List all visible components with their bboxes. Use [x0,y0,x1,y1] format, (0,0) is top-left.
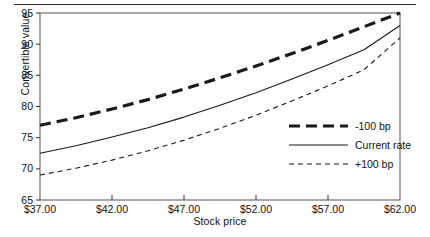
legend-label: +100 bp [355,158,393,170]
y-tick-label: 85 [21,69,33,81]
chart-figure: Convertible value Stock price 6570758085… [0,0,430,237]
x-tick-label: $57.00 [312,203,344,215]
y-axis-ticks: 65707580859095 [21,7,40,206]
x-tick-label: $47.00 [168,203,200,215]
y-tick-label: 70 [21,162,33,174]
x-tick-label: $52.00 [240,203,272,215]
y-tick-label: 95 [21,7,33,19]
legend-label: -100 bp [355,120,391,132]
x-tick-label: $42.00 [96,203,128,215]
y-tick-label: 90 [21,38,33,50]
plot-frame [40,13,400,200]
y-tick-label: 75 [21,131,33,143]
y-tick-label: 80 [21,100,33,112]
line-chart-plot: 65707580859095 $37.00$42.00$47.00$52.00$… [0,0,430,237]
x-tick-label: $62.00 [384,203,416,215]
legend-label: Current rate [355,139,411,151]
x-tick-label: $37.00 [24,203,56,215]
